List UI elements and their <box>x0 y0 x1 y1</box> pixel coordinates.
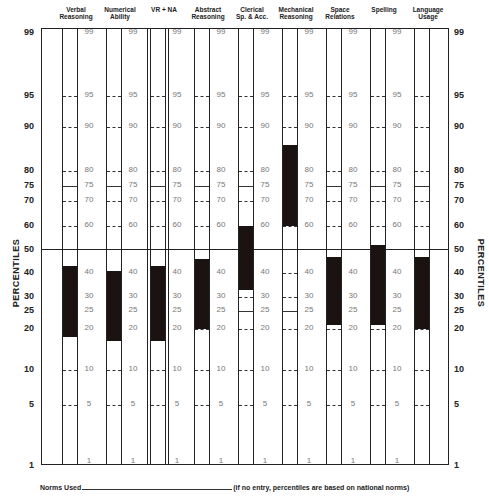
tick-10 <box>63 370 77 371</box>
scale-number-60: 60 <box>211 220 231 229</box>
scale-number-70: 70 <box>299 195 319 204</box>
scale-number-99: 99 <box>387 27 407 36</box>
scale-number-95: 95 <box>79 90 99 99</box>
scale-number-70: 70 <box>79 195 99 204</box>
tick-75 <box>327 186 341 187</box>
tick-75 <box>415 186 429 187</box>
scale-number-20: 20 <box>167 323 187 332</box>
norms-used-field[interactable] <box>82 489 232 490</box>
tick-20 <box>371 329 385 330</box>
scale-number-70: 70 <box>387 195 407 204</box>
y-tick-label-right: 10 <box>454 364 476 374</box>
tick-10 <box>195 370 209 371</box>
scale-number-95: 95 <box>299 90 319 99</box>
column-header: Language Usage <box>398 6 458 20</box>
scale-number-30: 30 <box>167 291 187 300</box>
score-column-6 <box>282 28 298 465</box>
y-tick-label-right: 5 <box>454 399 476 409</box>
scale-number-95: 95 <box>255 90 275 99</box>
tick-5 <box>327 405 341 406</box>
scale-number-90: 90 <box>343 121 363 130</box>
tick-75 <box>371 186 385 187</box>
tick-30 <box>239 297 253 298</box>
tick-90 <box>415 127 429 128</box>
scale-number-40: 40 <box>211 267 231 276</box>
scale-number-25: 25 <box>255 305 275 314</box>
tick-95 <box>239 96 253 97</box>
scale-number-80: 80 <box>167 165 187 174</box>
y-tick-label-left: 99 <box>12 27 34 37</box>
tick-5 <box>151 405 165 406</box>
scale-number-25: 25 <box>79 305 99 314</box>
tick-90 <box>107 127 121 128</box>
scale-number-1: 1 <box>123 456 143 465</box>
y-tick-label-right: 70 <box>454 195 476 205</box>
scale-number-10: 10 <box>79 364 99 373</box>
scale-number-30: 30 <box>211 291 231 300</box>
tick-20 <box>283 329 297 330</box>
y-tick-label-right: 1 <box>454 460 476 470</box>
tick-40 <box>283 273 297 274</box>
y-tick-label-left: 90 <box>12 121 34 131</box>
tick-80 <box>63 171 77 172</box>
scale-number-75: 75 <box>79 180 99 189</box>
tick-70 <box>195 201 209 202</box>
scale-number-5: 5 <box>299 399 319 408</box>
scale-number-40: 40 <box>123 267 143 276</box>
tick-75 <box>239 186 253 187</box>
scale-number-60: 60 <box>255 220 275 229</box>
scale-number-99: 99 <box>123 27 143 36</box>
scale-number-1: 1 <box>255 456 275 465</box>
y-tick-label-right: 80 <box>454 165 476 175</box>
tick-95 <box>415 96 429 97</box>
tick-90 <box>327 127 341 128</box>
scale-number-60: 60 <box>79 220 99 229</box>
scale-number-40: 40 <box>79 267 99 276</box>
norms-used-label: Norms Used <box>40 484 81 491</box>
scale-number-90: 90 <box>255 121 275 130</box>
scale-number-40: 40 <box>387 267 407 276</box>
tick-60 <box>415 226 429 227</box>
tick-90 <box>239 127 253 128</box>
tick-30 <box>283 297 297 298</box>
scale-number-95: 95 <box>123 90 143 99</box>
scale-number-5: 5 <box>387 399 407 408</box>
tick-75 <box>195 186 209 187</box>
scale-number-20: 20 <box>255 323 275 332</box>
scale-number-90: 90 <box>299 121 319 130</box>
tick-75 <box>63 186 77 187</box>
score-column-4 <box>194 28 210 465</box>
scale-number-30: 30 <box>343 291 363 300</box>
scale-number-99: 99 <box>79 27 99 36</box>
scale-number-70: 70 <box>123 195 143 204</box>
scale-number-75: 75 <box>211 180 231 189</box>
y-tick-label-left: 80 <box>12 165 34 175</box>
score-band-1 <box>63 266 77 337</box>
scale-number-25: 25 <box>123 305 143 314</box>
score-column-1 <box>62 28 78 465</box>
scale-number-70: 70 <box>167 195 187 204</box>
double-rule <box>147 28 148 465</box>
scale-number-90: 90 <box>79 121 99 130</box>
scale-number-99: 99 <box>167 27 187 36</box>
tick-70 <box>371 201 385 202</box>
tick-60 <box>63 226 77 227</box>
scale-number-40: 40 <box>299 267 319 276</box>
scale-number-30: 30 <box>387 291 407 300</box>
scale-number-30: 30 <box>123 291 143 300</box>
scale-number-20: 20 <box>79 323 99 332</box>
scale-number-5: 5 <box>255 399 275 408</box>
tick-20 <box>327 329 341 330</box>
scale-number-20: 20 <box>387 323 407 332</box>
scale-number-99: 99 <box>255 27 275 36</box>
scale-number-80: 80 <box>343 165 363 174</box>
score-band-8 <box>371 245 385 325</box>
tick-25 <box>239 311 253 312</box>
tick-95 <box>327 96 341 97</box>
tick-60 <box>107 226 121 227</box>
tick-60 <box>371 226 385 227</box>
scale-number-10: 10 <box>167 364 187 373</box>
scale-number-90: 90 <box>211 121 231 130</box>
scale-number-30: 30 <box>299 291 319 300</box>
scale-number-90: 90 <box>387 121 407 130</box>
